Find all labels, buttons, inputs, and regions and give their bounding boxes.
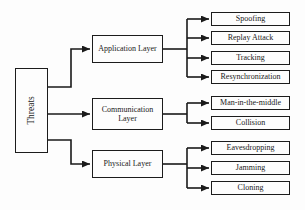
threat-box-resynchronization: Resynchronization — [211, 70, 290, 84]
threats-diagram: Threats Application Layer Communication … — [0, 0, 305, 210]
threat-box-jamming: Jamming — [211, 161, 290, 175]
threat-box-spoofing: Spoofing — [211, 12, 290, 26]
threats-label: Threats — [26, 96, 37, 125]
threat-box-cloning: Cloning — [211, 181, 290, 195]
threats-box: Threats — [15, 68, 48, 153]
layer-box-physical: Physical Layer — [92, 150, 163, 178]
layer-box-application: Application Layer — [92, 35, 163, 63]
threat-box-collision: Collision — [211, 116, 290, 130]
layer-box-communication: Communication Layer — [92, 98, 163, 130]
threat-box-man-in-the-middle: Man-in-the-middle — [211, 96, 290, 110]
threat-box-tracking: Tracking — [211, 51, 290, 65]
threat-box-eavesdropping: Eavesdropping — [211, 141, 290, 155]
threat-box-replay-attack: Replay Attack — [211, 31, 290, 45]
